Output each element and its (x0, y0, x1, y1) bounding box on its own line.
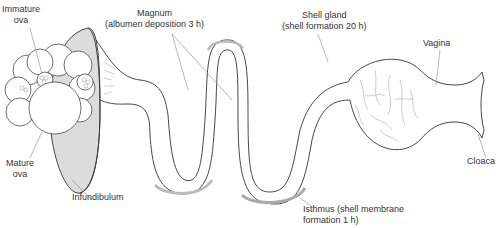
label-mature-ova-line2: ova (13, 169, 28, 179)
label-mature-ova: Matureova (6, 158, 34, 180)
magnum-tube (150, 40, 350, 204)
label-isthmus-line2: formation 1 h) (303, 215, 359, 225)
label-magnum-line2: (albumen deposition 3 h) (105, 19, 204, 29)
label-mature-ova-line1: Mature (6, 158, 34, 168)
label-immature-ova: Immatureova (2, 4, 40, 26)
label-isthmus-line1: Isthmus (shell membrane (303, 204, 404, 214)
label-vagina: Vagina (423, 38, 450, 49)
label-immature-ova-line1: Immature (2, 4, 40, 14)
label-shell-gland: Shell gland(shell formation 20 h) (282, 10, 367, 32)
label-magnum-line1: Magnum (137, 8, 172, 18)
label-shell-gland-line1: Shell gland (302, 10, 347, 20)
label-shell-gland-line2: (shell formation 20 h) (282, 21, 367, 31)
label-cloaca: Cloaca (467, 156, 495, 167)
shell-gland-shape (348, 59, 484, 149)
label-isthmus: Isthmus (shell membraneformation 1 h) (303, 204, 404, 226)
label-infundibulum: Infundibulum (72, 192, 124, 203)
funnel-neck (96, 40, 168, 135)
label-immature-ova-line2: ova (14, 15, 29, 25)
label-magnum: Magnum(albumen deposition 3 h) (105, 8, 204, 30)
ova-cluster (5, 44, 95, 134)
